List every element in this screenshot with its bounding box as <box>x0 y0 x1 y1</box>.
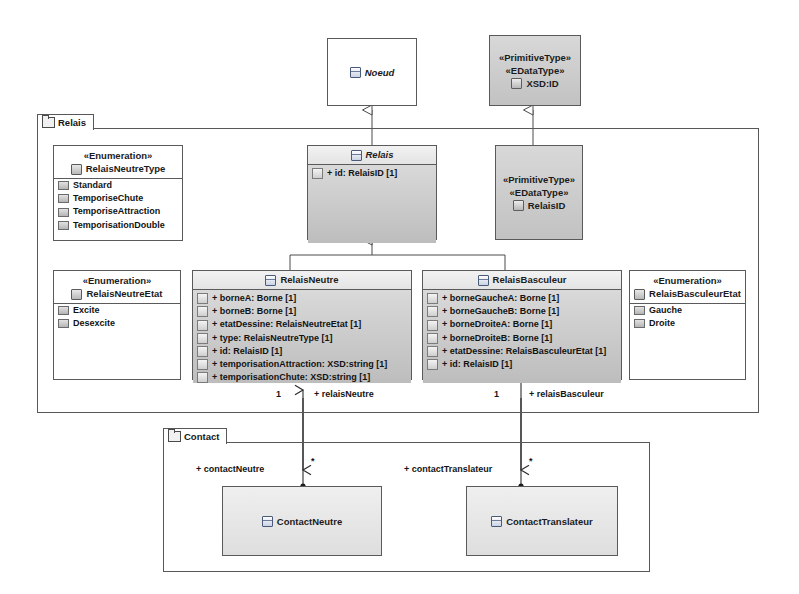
class-contact-neutre-name: ContactNeutre <box>277 515 342 528</box>
enum-literal[interactable]: Excite <box>54 304 180 317</box>
package-relais-tab[interactable]: Relais <box>37 114 94 130</box>
class-icon <box>491 516 502 527</box>
literal-icon <box>634 306 645 315</box>
literal-icon <box>58 319 69 328</box>
attribute-label: + etatDessine: RelaisBasculeurEtat [1] <box>442 345 606 358</box>
class-relais-header: Relais <box>308 146 436 165</box>
attribute-row[interactable]: + borneDroiteA: Borne [1] <box>423 318 621 331</box>
enum-relais-neutre-type-stereotype: «Enumeration» <box>84 150 153 162</box>
attribute-row[interactable]: + id: RelaisID [1] <box>308 167 436 180</box>
edge-label-contacttranslateur-multiplicity: * <box>529 456 533 466</box>
attribute-row[interactable]: + etatDessine: RelaisNeutreEtat [1] <box>193 318 411 331</box>
class-contact-neutre[interactable]: ContactNeutre <box>222 486 382 556</box>
literal-icon <box>58 181 69 190</box>
enum-relais-neutre-type-name: RelaisNeutreType <box>86 163 166 175</box>
class-icon <box>351 150 362 161</box>
attribute-label: + borneGaucheA: Borne [1] <box>442 292 559 305</box>
class-contact-translateur-name: ContactTranslateur <box>506 515 593 528</box>
enum-relais-basculeur-etat-name: RelaisBasculeurEtat <box>649 288 741 300</box>
class-relais[interactable]: Relais + id: RelaisID [1] <box>307 145 437 240</box>
attribute-row[interactable]: + borneB: Borne [1] <box>193 305 411 318</box>
enum-literal-label: TemporiseChute <box>73 192 143 205</box>
attribute-row[interactable]: + etatDessine: RelaisBasculeurEtat [1] <box>423 345 621 358</box>
edge-label-relaisneutre-role: + relaisNeutre <box>314 389 374 399</box>
attribute-row[interactable]: + id: RelaisID [1] <box>423 358 621 371</box>
literal-icon <box>634 319 645 328</box>
attribute-icon <box>427 320 438 331</box>
enum-relais-neutre-type-literals: Standard TemporiseChute TemporiseAttract… <box>54 178 182 232</box>
class-xsd-id-stereotype-2: «EDataType» <box>506 64 565 77</box>
attribute-row[interactable]: + id: RelaisID [1] <box>193 345 411 358</box>
enum-literal[interactable]: TemporiseChute <box>54 192 182 205</box>
enum-literal[interactable]: Gauche <box>630 304 745 317</box>
attribute-row[interactable]: + borneA: Borne [1] <box>193 292 411 305</box>
package-icon <box>42 117 55 128</box>
enum-literal[interactable]: Standard <box>54 179 182 192</box>
class-noeud-header: Noeud <box>328 39 416 105</box>
class-relais-neutre-header: RelaisNeutre <box>193 271 411 290</box>
enum-relais-neutre-type[interactable]: «Enumeration» RelaisNeutreType Standard … <box>53 145 183 241</box>
attribute-row[interactable]: + temporisationAttraction: XSD:string [1… <box>193 358 411 371</box>
class-relais-neutre-attributes: + borneA: Borne [1] + borneB: Borne [1] … <box>193 290 411 383</box>
class-xsd-id-stereotype-1: «PrimitiveType» <box>499 51 571 64</box>
class-icon <box>262 516 273 527</box>
attribute-row[interactable]: + type: RelaisNeutreType [1] <box>193 332 411 345</box>
enum-literal-label: TemporisationDouble <box>73 219 165 232</box>
class-relais-neutre[interactable]: RelaisNeutre + borneA: Borne [1] + borne… <box>192 270 412 380</box>
datatype-icon <box>513 200 524 211</box>
attribute-label: + id: RelaisID [1] <box>442 358 512 371</box>
enum-relais-neutre-etat[interactable]: «Enumeration» RelaisNeutreEtat Excite De… <box>53 270 181 380</box>
attribute-icon <box>197 320 208 331</box>
enum-literal[interactable]: Desexcite <box>54 317 180 330</box>
attribute-label: + borneA: Borne [1] <box>212 292 296 305</box>
enum-relais-basculeur-etat-literals: Gauche Droite <box>630 303 745 380</box>
literal-icon <box>58 306 69 315</box>
attribute-label: + id: RelaisID [1] <box>327 167 397 180</box>
class-icon <box>265 275 276 286</box>
class-relais-basculeur-name: RelaisBasculeur <box>493 274 567 286</box>
class-contact-translateur[interactable]: ContactTranslateur <box>466 486 618 556</box>
enum-literal-label: Desexcite <box>73 317 115 330</box>
enum-relais-basculeur-etat[interactable]: «Enumeration» RelaisBasculeurEtat Gauche… <box>629 270 746 380</box>
class-relais-attributes: + id: RelaisID [1] <box>308 165 436 243</box>
attribute-icon <box>427 333 438 344</box>
attribute-row[interactable]: + borneDroiteB: Borne [1] <box>423 332 621 345</box>
enum-relais-neutre-type-header: «Enumeration» RelaisNeutreType <box>54 146 182 178</box>
class-relais-id-stereotype-2: «EDataType» <box>510 186 569 199</box>
class-icon <box>350 67 361 78</box>
enum-literal[interactable]: Droite <box>630 317 745 330</box>
class-relais-id[interactable]: «PrimitiveType» «EDataType» RelaisID <box>495 145 583 240</box>
attribute-row[interactable]: + temporisationChute: XSD:string [1] <box>193 371 411 384</box>
attribute-label: + borneGaucheB: Borne [1] <box>442 305 559 318</box>
enum-icon <box>634 289 645 300</box>
enum-literal[interactable]: TemporisationDouble <box>54 219 182 232</box>
class-relais-id-stereotype-1: «PrimitiveType» <box>503 173 575 186</box>
enum-relais-basculeur-etat-stereotype: «Enumeration» <box>653 275 722 287</box>
enum-literal[interactable]: TemporiseAttraction <box>54 205 182 218</box>
attribute-row[interactable]: + borneGaucheA: Borne [1] <box>423 292 621 305</box>
class-noeud[interactable]: Noeud <box>327 38 417 106</box>
enum-relais-neutre-etat-literals: Excite Desexcite <box>54 303 180 380</box>
attribute-icon <box>427 293 438 304</box>
attribute-icon <box>197 293 208 304</box>
package-contact-tab[interactable]: Contact <box>163 428 227 444</box>
attribute-icon <box>197 359 208 370</box>
edge-label-contactneutre-multiplicity: * <box>311 456 315 466</box>
enum-literal-label: Droite <box>649 317 675 330</box>
literal-icon <box>58 221 69 230</box>
class-icon <box>478 275 489 286</box>
attribute-icon <box>197 346 208 357</box>
attribute-label: + temporisationAttraction: XSD:string [1… <box>212 358 387 371</box>
class-contact-translateur-body: ContactTranslateur <box>467 487 617 555</box>
attribute-label: + borneDroiteB: Borne [1] <box>442 332 552 345</box>
edge-label-relaisbasculeur-multiplicity: 1 <box>494 389 499 399</box>
literal-icon <box>58 194 69 203</box>
class-relais-basculeur[interactable]: RelaisBasculeur + borneGaucheA: Borne [1… <box>422 270 622 380</box>
enum-literal-label: TemporiseAttraction <box>73 205 160 218</box>
enum-relais-basculeur-etat-header: «Enumeration» RelaisBasculeurEtat <box>630 271 745 303</box>
class-relais-name: Relais <box>366 149 394 161</box>
class-xsd-id[interactable]: «PrimitiveType» «EDataType» XSD:ID <box>489 35 581 106</box>
attribute-label: + id: RelaisID [1] <box>212 345 282 358</box>
attribute-row[interactable]: + borneGaucheB: Borne [1] <box>423 305 621 318</box>
attribute-icon <box>312 168 323 179</box>
